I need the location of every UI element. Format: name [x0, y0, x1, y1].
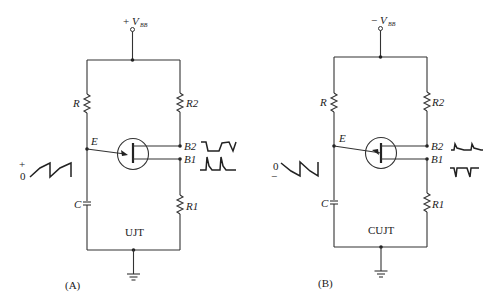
device-label-a: UJT [125, 226, 144, 238]
caption-a: (A) [65, 279, 81, 292]
circuit-a: + V BB R E C R2 B2 B1 R1 [19, 15, 236, 292]
junction-dot [131, 58, 135, 62]
label-c: C [321, 197, 329, 209]
polarity-bottom-a: 0 [20, 170, 26, 182]
ujt-symbol-icon [87, 139, 180, 170]
label-r2: R2 [185, 97, 199, 109]
device-label-b: CUJT [368, 224, 395, 236]
cujt-symbol-icon [334, 138, 427, 169]
ground-icon [127, 274, 140, 280]
polarity-top-a: + [19, 158, 25, 170]
label-b2: B2 [431, 140, 444, 152]
supply-subscript-a: BB [140, 22, 148, 28]
resistor-r2-icon [424, 92, 430, 111]
junction-dot [379, 55, 383, 59]
ground-icon [375, 271, 388, 277]
supply-subscript-b: BB [388, 21, 396, 27]
circuit-b: − V BB R E C R2 B2 B1 R1 [271, 14, 483, 290]
supply-label-b: V [380, 14, 388, 26]
label-r: R [319, 96, 327, 108]
label-b1: B1 [431, 153, 443, 165]
label-b2: B2 [184, 140, 197, 152]
label-r1: R1 [431, 198, 444, 210]
b2-waveform-icon [201, 142, 236, 151]
b1-waveform-icon [450, 168, 479, 177]
b1-waveform-icon [200, 157, 236, 170]
circuit-diagram: + V BB R E C R2 B2 B1 R1 [0, 0, 496, 306]
supply-label-a: V [132, 15, 140, 27]
label-r2: R2 [431, 96, 445, 108]
supply-sign-b: − [371, 14, 377, 26]
b2-waveform-icon [451, 144, 483, 150]
resistor-r-icon [84, 94, 90, 113]
resistor-r2-icon [177, 93, 183, 112]
label-r: R [72, 97, 80, 109]
supply-terminal-icon [379, 27, 383, 31]
label-e: E [338, 132, 346, 144]
supply-sign-a: + [123, 15, 129, 27]
resistor-r1-icon [177, 195, 183, 214]
polarity-bottom-b: − [271, 170, 277, 182]
label-c: C [74, 198, 82, 210]
supply-terminal-icon [131, 28, 135, 32]
label-b1: B1 [184, 153, 196, 165]
resistor-r1-icon [424, 193, 430, 212]
sawtooth-waveform-icon [281, 162, 318, 176]
sawtooth-waveform-icon [30, 163, 71, 177]
caption-b: (B) [318, 277, 333, 290]
label-r1: R1 [185, 200, 198, 212]
resistor-r-icon [331, 93, 337, 112]
label-e: E [90, 135, 98, 147]
